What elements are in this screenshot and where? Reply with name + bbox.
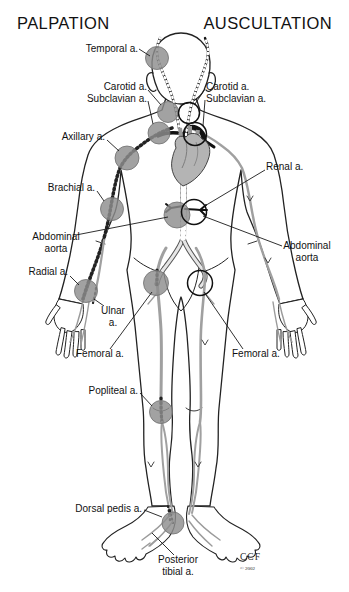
credit: CCF © 2002 [240,553,261,573]
label-posterior-tibial-artery: Posterior tibial a. [138,554,218,578]
label-popliteal-artery: Popliteal a. [89,385,138,397]
palpation-point-axillary [115,146,139,170]
palpation-point-femoral [144,271,169,296]
palpation-point-dorsal-pedis [162,512,184,534]
body-illustration [0,0,349,592]
heading-auscultation: AUSCULTATION [203,14,332,33]
label-ulnar-artery: Ulnar a. [93,305,133,329]
label-renal-artery: Renal a. [266,161,303,173]
credit-year: © 2002 [240,564,261,573]
label-femoral-artery-left: Femoral a. [76,348,124,360]
label-axillary-artery: Axillary a. [62,131,105,143]
palpation-point-abdominal-aorta [164,202,190,228]
label-subclavian-artery-left: Subclavian a. [87,93,147,105]
right-hand [277,299,316,358]
label-carotid-artery-right: Carotid a. [206,81,249,93]
label-dorsal-pedis-artery: Dorsal pedis a. [75,503,142,515]
label-carotid-artery-left: Carotid a. [104,81,147,93]
anatomy-diagram: PALPATION AUSCULTATION Temporal a. Carot… [0,0,349,592]
label-brachial-artery: Brachial a. [48,182,95,194]
palpation-point-popliteal [150,401,173,424]
label-temporal-artery: Temporal a. [86,43,138,55]
label-abdominal-aorta-right: Abdominal aorta [267,240,347,264]
palpation-point-temporal [146,47,169,70]
label-abdominal-aorta-left: Abdominal aorta [16,231,96,255]
label-radial-artery: Radial a. [29,266,68,278]
label-femoral-artery-right: Femoral a. [232,348,280,360]
palpation-point-subclavian [148,122,170,144]
heading-palpation: PALPATION [17,14,110,33]
label-subclavian-artery-right: Subclavian a. [206,93,266,105]
credit-org: CCF [240,552,261,562]
